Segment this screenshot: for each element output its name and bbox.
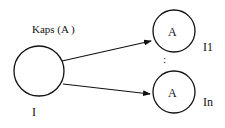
- source-node-label: I: [32, 105, 36, 119]
- target-node-in-label: In: [203, 95, 213, 109]
- target-node-in-inner: A: [168, 86, 177, 100]
- ellipsis: :: [163, 53, 166, 65]
- target-node-i1-label: I1: [203, 40, 213, 54]
- source-node: [14, 46, 64, 96]
- arrow-to-in: [63, 84, 150, 94]
- target-node-i1-inner: A: [168, 25, 177, 39]
- diagram-canvas: Kaps (A ) I A I1 : A In: [0, 0, 225, 128]
- arrow-to-i1: [62, 41, 151, 61]
- kaps-label: Kaps (A ): [32, 23, 75, 36]
